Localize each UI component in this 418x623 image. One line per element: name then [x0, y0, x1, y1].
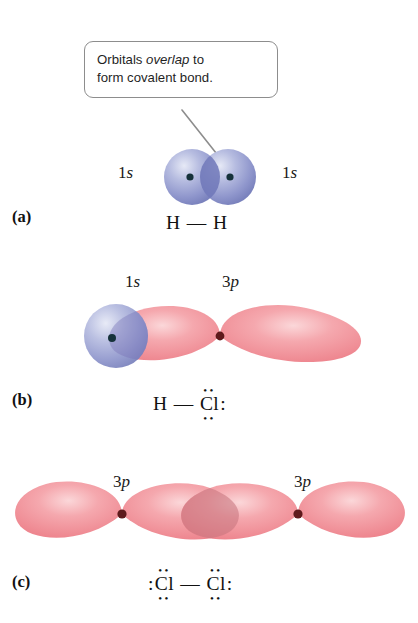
lewis-atom-h-right: H: [212, 212, 228, 234]
lewis-atom-cl-left: •• Cl ••: [154, 573, 175, 595]
lewis-atom-h: H: [152, 393, 168, 415]
panel-letter-a: (a): [12, 207, 31, 227]
orbital-3p-left-outer-lobe: [15, 482, 122, 538]
panel-a-label-1s-left: 1s: [118, 163, 133, 183]
lone-pair-right-outer: :: [227, 573, 233, 594]
lone-pair-top-left: ••: [158, 568, 171, 572]
nucleus-chlorine-left: [117, 509, 126, 518]
panel-c-label-3p-left: 3p: [113, 472, 130, 492]
nucleus-left: [186, 173, 193, 180]
callout-line-1-emphasis: overlap: [146, 52, 189, 67]
panel-b-formula: H — •• Cl •• :: [152, 393, 226, 415]
bond-b: —: [174, 393, 194, 414]
panel-letter-c: (c): [12, 572, 30, 592]
lewis-atom-h-left: H: [165, 212, 181, 234]
panel-c-label-3p-right: 3p: [294, 472, 311, 492]
lewis-atom-cl-right: •• Cl ••: [206, 573, 227, 595]
bond-c: —: [180, 573, 200, 594]
panel-a-orbital-diagram: [150, 146, 270, 208]
lone-pair-top-right: ••: [210, 568, 223, 572]
panel-a-label-1s-right: 1s: [282, 163, 297, 183]
panel-a-formula: H — H: [165, 212, 228, 234]
bond-a: —: [187, 212, 207, 233]
lone-pair-right: :: [220, 393, 226, 414]
callout-line-1-post: to: [189, 52, 204, 67]
panel-b-label-3p: 3p: [222, 272, 239, 292]
nucleus-right: [226, 173, 233, 180]
orbital-3p-right-outer-lobe: [298, 482, 405, 538]
panel-letter-b: (b): [12, 390, 32, 410]
lone-pair-bottom: ••: [203, 416, 216, 420]
callout-line-1-pre: Orbitals: [97, 52, 146, 67]
nucleus-chlorine: [216, 332, 225, 341]
panel-c-orbital-diagram: [8, 466, 412, 556]
orbital-overlap-figure: Orbitals overlap to form covalent bond.: [0, 0, 418, 623]
nucleus-chlorine-right: [293, 509, 302, 518]
lewis-atom-cl: •• Cl ••: [199, 393, 220, 415]
panel-b-label-1s: 1s: [125, 272, 140, 292]
nucleus-hydrogen: [108, 334, 116, 342]
panel-c-formula: : •• Cl •• — •• Cl •• :: [148, 573, 233, 595]
lone-pair-bottom-left: ••: [158, 596, 171, 600]
callout-box: Orbitals overlap to form covalent bond.: [84, 41, 278, 98]
lone-pair-bottom-right: ••: [210, 596, 223, 600]
callout-line-2: form covalent bond.: [97, 70, 213, 85]
lone-pair-top: ••: [203, 388, 216, 392]
panel-b-orbital-diagram: [68, 292, 384, 378]
orbital-3p-right-lobe: [220, 305, 361, 362]
